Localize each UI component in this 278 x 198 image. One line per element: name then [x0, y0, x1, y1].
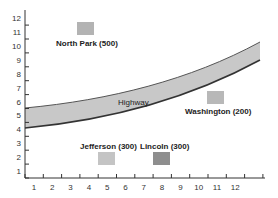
y-axis-ticks: 123456789101112	[12, 14, 29, 178]
x-tick-label: 9	[178, 183, 183, 192]
x-tick-label: 12	[231, 183, 240, 192]
washington-marker	[207, 91, 224, 104]
y-tick-label: 5	[17, 111, 22, 120]
y-tick-label: 4	[17, 125, 22, 134]
highway-label: Highway	[118, 98, 149, 107]
x-tick-label: 10	[194, 183, 203, 192]
map-diagram: Highway 123456789101112 123456789101112 …	[0, 0, 278, 198]
x-tick-label: 5	[105, 183, 110, 192]
north-park-label: North Park (500)	[56, 39, 118, 48]
jefferson-label: Jefferson (300)	[80, 142, 137, 151]
washington-label: Washington (200)	[185, 107, 252, 116]
y-tick-label: 1	[17, 167, 22, 176]
y-tick-label: 6	[17, 98, 22, 107]
y-tick-label: 8	[17, 70, 22, 79]
x-tick-label: 2	[50, 183, 55, 192]
lincoln-label: Lincoln (300)	[140, 142, 190, 151]
y-tick-label: 7	[17, 84, 22, 93]
y-tick-label: 3	[17, 139, 22, 148]
x-tick-label: 6	[123, 183, 128, 192]
y-tick-label: 2	[17, 153, 22, 162]
jefferson-marker	[98, 152, 115, 165]
y-tick-label: 11	[13, 28, 22, 37]
x-axis-ticks: 123456789101112	[25, 174, 263, 192]
x-tick-label: 4	[87, 183, 92, 192]
x-tick-label: 1	[32, 183, 37, 192]
x-tick-label: 3	[68, 183, 73, 192]
lincoln-marker	[153, 152, 170, 165]
x-tick-label: 7	[142, 183, 147, 192]
y-tick-label: 9	[17, 56, 22, 65]
north-park-marker	[77, 22, 94, 35]
y-tick-label: 10	[12, 42, 21, 51]
x-tick-label: 8	[160, 183, 165, 192]
y-tick-label: 12	[12, 14, 21, 23]
x-tick-label: 11	[213, 183, 222, 192]
